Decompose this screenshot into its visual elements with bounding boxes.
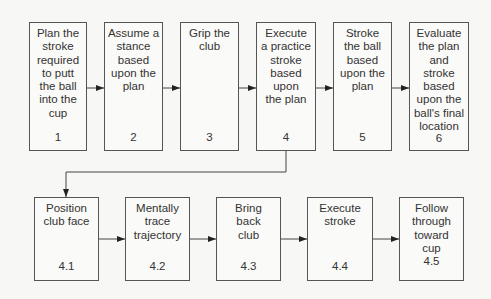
step-label-line: Evaluate [410,27,468,40]
step-label-line: to putt [30,67,86,80]
step-label-line: into the [30,93,86,106]
step-box-5: Strokethe ballbasedupon theplan5 [333,22,392,151]
step-label-line: Follow [400,202,463,215]
step-label: Bringbackclub [217,202,280,242]
step-label-line: Execute [257,27,315,40]
step-box-3: Grip theclub3 [180,22,239,151]
step-label-line: based [257,67,315,80]
step-label-line: upon the [410,93,468,106]
step-number: 4 [257,131,315,144]
step-label-line: the ball [30,80,86,93]
step-label-line: ball's final [410,107,468,120]
step-label-line: back [217,215,280,228]
step-label-line: stroke [308,215,372,228]
step-label-line: club [181,40,238,53]
step-label-line: upon [257,80,315,93]
step-label: Evaluatethe planandstrokebasedupon theba… [410,27,468,133]
step-label-line: plan [105,80,162,93]
step-label: Mentallytracetrajectory [126,202,189,242]
step-label-line: stroke [410,67,468,80]
step-label-line: Grip the [181,27,238,40]
step-label: Assume astancebasedupon theplan [105,27,162,93]
step-label-line: cup [30,107,86,120]
step-label-line: stroke [30,40,86,53]
step-number: 4.1 [35,260,98,273]
step-label-line: Stroke [334,27,391,40]
step-label: Grip theclub [181,27,238,54]
step-label-line: stroke [257,54,315,67]
step-box-2: Assume astancebasedupon theplan2 [104,22,163,151]
step-number: 4.2 [126,260,189,273]
step-box-4: Executea practicestrokebaseduponthe plan… [256,22,316,151]
step-box-4-4: Executestroke4.4 [307,197,373,281]
step-number: 2 [105,131,162,144]
step-number: 4.5 [400,255,463,268]
step-box-1: Plan thestrokerequiredto puttthe ballint… [29,22,87,151]
step-label-line: and [410,54,468,67]
step-label-line: a practice [257,40,315,53]
step-label-line: upon the [334,67,391,80]
step-label: Plan thestrokerequiredto puttthe ballint… [30,27,86,120]
step-label-line: cup [400,242,463,255]
step-box-4-2: Mentallytracetrajectory4.2 [125,197,190,281]
arrow-4-to-4.1 [66,151,286,197]
step-number: 3 [181,131,238,144]
step-label: Positionclub face [35,202,98,229]
step-number: 6 [410,132,468,145]
step-label-line: based [105,54,162,67]
step-label-line: stance [105,40,162,53]
step-label-line: Assume a [105,27,162,40]
step-number: 4.3 [217,260,280,273]
step-box-4-5: Followthroughtowardcup4.5 [399,197,464,281]
step-label-line: toward [400,229,463,242]
step-label-line: required [30,54,86,67]
step-label-line: the ball [334,40,391,53]
step-label: Executestroke [308,202,372,229]
step-label-line: upon the [105,67,162,80]
step-box-6: Evaluatethe planandstrokebasedupon theba… [409,22,469,151]
step-label: Followthroughtowardcup [400,202,463,255]
step-label-line: Bring [217,202,280,215]
step-label-line: Execute [308,202,372,215]
step-label-line: based [334,54,391,67]
step-label: Executea practicestrokebaseduponthe plan [257,27,315,107]
step-box-4-3: Bringbackclub4.3 [216,197,281,281]
step-label-line: trajectory [126,229,189,242]
step-label-line: club face [35,215,98,228]
step-label-line: Position [35,202,98,215]
step-label-line: the plan [257,93,315,106]
step-box-4-1: Positionclub face4.1 [34,197,99,281]
step-label-line: the plan [410,40,468,53]
step-number: 4.4 [308,260,372,273]
step-label: Strokethe ballbasedupon theplan [334,27,391,93]
step-label-line: trace [126,215,189,228]
step-label-line: club [217,229,280,242]
step-label-line: plan [334,80,391,93]
step-number: 1 [30,131,86,144]
step-label-line: Plan the [30,27,86,40]
step-number: 5 [334,131,391,144]
step-label-line: through [400,215,463,228]
step-label-line: Mentally [126,202,189,215]
step-label-line: based [410,80,468,93]
